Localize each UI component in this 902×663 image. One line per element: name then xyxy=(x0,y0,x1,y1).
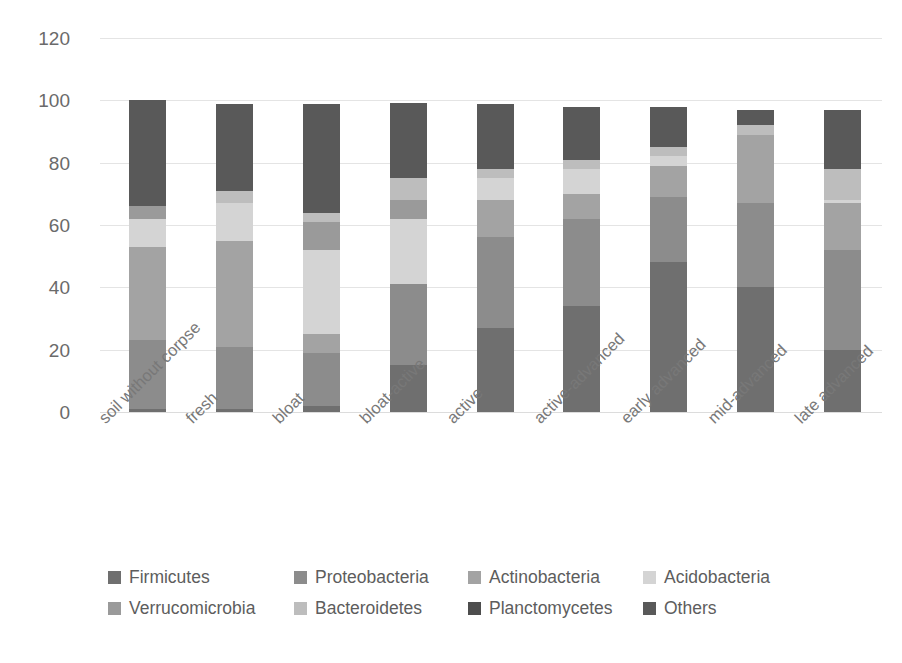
bar-segment[interactable] xyxy=(216,203,253,240)
y-tick-label: 100 xyxy=(10,91,70,110)
legend-swatch-icon xyxy=(643,602,656,615)
legend-label: Firmicutes xyxy=(129,569,210,587)
legend-item[interactable]: Verrucomicrobia xyxy=(108,600,255,618)
bar-segment[interactable] xyxy=(650,166,687,197)
bar-segment[interactable] xyxy=(737,135,774,204)
bar-segment[interactable] xyxy=(129,247,166,341)
legend-item[interactable]: Bacteroidetes xyxy=(294,600,422,618)
bar-segment[interactable] xyxy=(650,156,687,165)
bar-stack xyxy=(303,104,340,412)
bar-segment[interactable] xyxy=(390,284,427,365)
bar-segment[interactable] xyxy=(477,237,514,327)
bar-segment[interactable] xyxy=(737,110,774,126)
bar-segment[interactable] xyxy=(737,203,774,287)
bar-segment[interactable] xyxy=(216,347,253,409)
legend-label: Verrucomicrobia xyxy=(129,600,255,618)
bar-segment[interactable] xyxy=(390,219,427,284)
bar-segment[interactable] xyxy=(129,219,166,247)
legend-label: Acidobacteria xyxy=(664,569,770,587)
legend-label: Proteobacteria xyxy=(315,569,429,587)
bar-segment[interactable] xyxy=(563,194,600,219)
bar-segment[interactable] xyxy=(303,334,340,353)
bar-segment[interactable] xyxy=(824,250,861,350)
y-tick-label: 80 xyxy=(10,153,70,172)
legend-item[interactable]: Firmicutes xyxy=(108,569,210,587)
bar-segment[interactable] xyxy=(303,406,340,412)
bar-segment[interactable] xyxy=(650,107,687,148)
bar-segment[interactable] xyxy=(563,107,600,160)
legend-label: Actinobacteria xyxy=(489,569,600,587)
bar-group[interactable] xyxy=(303,38,340,412)
y-tick-label: 40 xyxy=(10,278,70,297)
bar-segment[interactable] xyxy=(563,160,600,169)
bar-segment[interactable] xyxy=(129,206,166,218)
y-tick-label: 0 xyxy=(10,403,70,422)
legend-item[interactable]: Others xyxy=(643,600,717,618)
bar-segment[interactable] xyxy=(216,409,253,412)
bar-stack xyxy=(477,104,514,413)
bar-segment[interactable] xyxy=(390,178,427,200)
legend-item[interactable]: Planctomycetes xyxy=(468,600,613,618)
y-tick-label: 120 xyxy=(10,29,70,48)
bar-segment[interactable] xyxy=(303,353,340,406)
bar-segment[interactable] xyxy=(216,241,253,347)
bar-stack xyxy=(216,104,253,413)
bar-segment[interactable] xyxy=(477,200,514,237)
bar-segment[interactable] xyxy=(824,110,861,169)
legend-swatch-icon xyxy=(468,571,481,584)
y-tick-label: 60 xyxy=(10,216,70,235)
bar-segment[interactable] xyxy=(129,100,166,206)
bar-segment[interactable] xyxy=(477,178,514,200)
legend-swatch-icon xyxy=(294,571,307,584)
bar-segment[interactable] xyxy=(824,203,861,250)
chart-figure: 020406080100120 proportion of microbiota… xyxy=(0,0,902,663)
bar-segment[interactable] xyxy=(650,147,687,156)
bar-segment[interactable] xyxy=(477,169,514,178)
legend-swatch-icon xyxy=(108,602,121,615)
bar-segment[interactable] xyxy=(563,219,600,306)
legend-item[interactable]: Acidobacteria xyxy=(643,569,770,587)
legend-item[interactable]: Actinobacteria xyxy=(468,569,600,587)
bar-segment[interactable] xyxy=(390,200,427,219)
legend-row: FirmicutesProteobacteriaActinobacteriaAc… xyxy=(108,562,808,593)
legend-label: Others xyxy=(664,600,717,618)
axis-line-zero xyxy=(100,412,882,413)
legend-swatch-icon xyxy=(643,571,656,584)
legend-swatch-icon xyxy=(294,602,307,615)
legend-swatch-icon xyxy=(468,602,481,615)
bar-segment[interactable] xyxy=(563,169,600,194)
bar-segment[interactable] xyxy=(216,104,253,191)
legend-item[interactable]: Proteobacteria xyxy=(294,569,429,587)
bar-segment[interactable] xyxy=(650,197,687,262)
bar-segment[interactable] xyxy=(824,169,861,200)
bar-segment[interactable] xyxy=(477,104,514,169)
y-tick-label: 20 xyxy=(10,340,70,359)
bar-segment[interactable] xyxy=(303,213,340,222)
legend-label: Bacteroidetes xyxy=(315,600,422,618)
bar-segment[interactable] xyxy=(390,103,427,178)
x-axis-labels: soil without corpsefreshbloatbloat-activ… xyxy=(100,414,882,554)
legend-row: VerrucomicrobiaBacteroidetesPlanctomycet… xyxy=(108,593,808,624)
bar-segment[interactable] xyxy=(216,191,253,203)
bar-segment[interactable] xyxy=(303,250,340,334)
bar-group[interactable] xyxy=(216,38,253,412)
bar-segment[interactable] xyxy=(303,104,340,213)
bar-group[interactable] xyxy=(390,38,427,412)
chart-legend: FirmicutesProteobacteriaActinobacteriaAc… xyxy=(108,562,808,624)
bar-segment[interactable] xyxy=(303,222,340,250)
bar-segment[interactable] xyxy=(129,409,166,412)
legend-label: Planctomycetes xyxy=(489,600,613,618)
bar-segment[interactable] xyxy=(737,125,774,134)
bar-group[interactable] xyxy=(477,38,514,412)
legend-swatch-icon xyxy=(108,571,121,584)
